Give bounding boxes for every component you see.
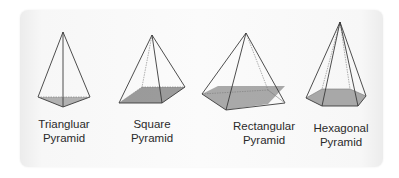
- label-line1: Hexagonal: [296, 121, 386, 135]
- label-line2: Pyramid: [107, 131, 197, 145]
- label-line2: Pyramid: [296, 135, 386, 149]
- square-pyramid-label: Square Pyramid: [107, 117, 197, 145]
- square-pyramid-icon: [115, 30, 195, 110]
- label-line2: Pyramid: [19, 131, 109, 145]
- label-line1: Triangluar: [19, 117, 109, 131]
- triangular-pyramid-icon: [30, 25, 100, 110]
- label-line1: Square: [107, 117, 197, 131]
- hexagonal-pyramid-label: Hexagonal Pyramid: [296, 121, 386, 149]
- hexagonal-pyramid-icon: [300, 18, 380, 113]
- triangular-pyramid-label: Triangluar Pyramid: [19, 117, 109, 145]
- rectangular-pyramid-icon: [198, 28, 293, 113]
